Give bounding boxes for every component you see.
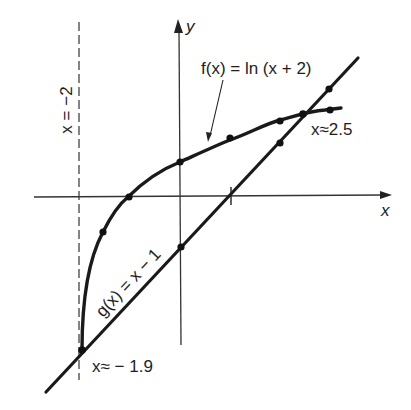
f-points (99, 106, 333, 235)
x-axis (34, 195, 384, 197)
y-axis-label: y (185, 17, 196, 36)
x-axis-arrow-icon (380, 191, 392, 199)
intersect-left-label: x≈ − 1.9 (92, 357, 153, 376)
g-label: g(x) = x − 1 (92, 245, 165, 321)
asymptote-label: x = −2 (57, 86, 76, 133)
f-label-pointer (210, 80, 223, 136)
x-axis-label: x (380, 201, 390, 220)
f-label-pointer-arrow-icon (206, 132, 212, 142)
g-line (46, 58, 358, 392)
y-axis (179, 30, 181, 345)
intersect-right-label: x≈2.5 (311, 120, 352, 139)
y-axis-arrow-icon (174, 19, 183, 33)
f-label: f(x) = ln (x + 2) (201, 59, 312, 78)
graph-figure: y x x = −2 f(x) = ln (x + 2) g(x) = x − … (0, 0, 411, 410)
